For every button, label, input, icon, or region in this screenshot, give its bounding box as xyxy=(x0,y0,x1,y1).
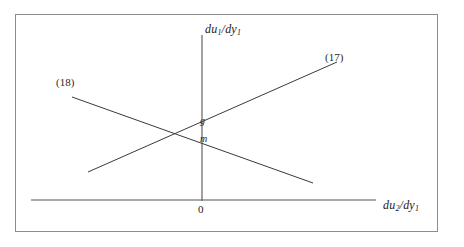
y-axis-label-numerator-sub: 1 xyxy=(217,28,221,37)
figure-page: du1/dy1 du2/dy1 0 (17) (18) g m xyxy=(0,0,464,247)
x-axis-label-numerator-sub: 2 xyxy=(395,204,399,213)
y-axis-label: du1/dy1 xyxy=(205,22,241,37)
x-axis-label-denominator-sub: 1 xyxy=(415,204,419,213)
x-axis-label-denominator: /dy xyxy=(400,198,415,212)
curve-18-label: (18) xyxy=(56,76,74,88)
curve-17-line xyxy=(88,62,337,172)
point-label-m: m xyxy=(200,133,207,144)
curve-17-label: (17) xyxy=(325,51,343,63)
x-axis-label: du2/dy1 xyxy=(383,198,419,213)
curve-18-line xyxy=(72,97,313,183)
x-axis-label-numerator: du xyxy=(383,198,395,212)
y-axis-label-denominator-sub: 1 xyxy=(237,28,241,37)
y-axis-label-numerator: du xyxy=(205,22,217,36)
point-label-g: g xyxy=(200,115,205,126)
origin-label: 0 xyxy=(198,203,204,215)
y-axis-label-denominator: /dy xyxy=(222,22,237,36)
